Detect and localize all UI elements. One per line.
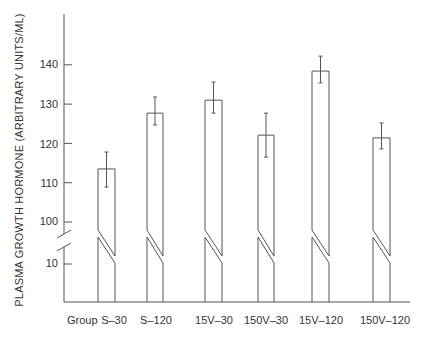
y-axis-label: PLASMA GROWTH HORMONE (ARBITRARY UNITS/M… (13, 13, 25, 306)
x-tick-label-150v120: 150V–120 (360, 314, 410, 326)
x-tick-label-15v30: 15V–30 (195, 314, 233, 326)
bar-break-upper (312, 230, 329, 256)
bar-break-upper (147, 230, 163, 256)
bar-2 (205, 82, 222, 302)
bar-0 (98, 152, 115, 302)
bar-break-upper (98, 230, 115, 256)
bar-3 (258, 113, 274, 302)
x-tick-label-s120: S–120 (140, 314, 172, 326)
bar-break-lower (147, 237, 163, 263)
bar-break-upper (258, 230, 274, 256)
chart-plot-area (0, 0, 435, 341)
y-tick-label-140: 140 (28, 58, 58, 70)
y-tick-label-10: 10 (28, 257, 58, 269)
bar-break-lower (258, 237, 274, 263)
y-tick-label-120: 120 (28, 138, 58, 150)
bar-break-lower (98, 237, 115, 263)
x-tick-label-150v30: 150V–30 (244, 314, 288, 326)
bar-chart: PLASMA GROWTH HORMONE (ARBITRARY UNITS/M… (0, 0, 435, 341)
y-tick-label-100: 100 (28, 215, 58, 227)
bar-break-lower (205, 237, 222, 263)
x-axis-label: Group (67, 314, 98, 326)
x-tick-label-s30: S–30 (101, 314, 127, 326)
bar-break-lower (373, 237, 390, 263)
bar-break-lower (312, 237, 329, 263)
bar-1 (147, 97, 163, 302)
y-tick-label-110: 110 (28, 177, 58, 189)
x-tick-label-15v120: 15V–120 (299, 314, 343, 326)
y-tick-label-130: 130 (28, 98, 58, 110)
bar-break-upper (205, 230, 222, 256)
bar-4 (312, 56, 329, 302)
bar-break-upper (373, 230, 390, 256)
bar-5 (373, 123, 390, 302)
